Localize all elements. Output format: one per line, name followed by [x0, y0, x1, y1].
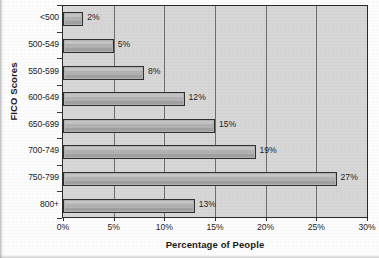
bar-value-label: 8% [148, 66, 160, 76]
bar-value-label: 27% [341, 172, 358, 182]
x-axis-title: Percentage of People [62, 239, 368, 250]
x-axis-tick-label: 10% [144, 222, 184, 232]
bar-value-label: 12% [189, 92, 206, 102]
y-axis-tick-label: 650-699 [10, 119, 59, 129]
x-axis-tick [316, 218, 317, 221]
x-axis-tick [266, 218, 267, 221]
x-axis-tick [164, 218, 165, 221]
y-axis-tick-label: 800+ [10, 199, 59, 209]
y-axis-tick-label: 750-799 [10, 172, 59, 182]
y-axis-tick-label: <500 [10, 12, 59, 22]
x-axis-tick-label: 5% [94, 222, 134, 232]
x-axis-tick [114, 218, 115, 221]
bar-value-label: 2% [87, 12, 99, 22]
y-axis-tick-label: 550-599 [10, 66, 59, 76]
y-axis-tick-label: 600-649 [10, 92, 59, 102]
x-axis-tick-label: 15% [195, 222, 235, 232]
bar-value-label: 5% [118, 39, 130, 49]
bar-value-label: 19% [260, 145, 277, 155]
y-axis-tick-labels: <500500-549550-599600-649650-699700-7497… [10, 5, 59, 218]
bar-value-label: 15% [219, 119, 236, 129]
x-axis-tick [367, 218, 368, 221]
x-axis-tick [215, 218, 216, 221]
bar-value-labels: 2%5%8%12%15%19%27%13% [62, 5, 379, 218]
chart-figure: FICO Scores FICO Scores <500500-549550-5… [0, 0, 379, 258]
scan-edge-left [0, 0, 3, 258]
bar-value-label: 13% [199, 199, 216, 209]
x-axis-tick-label: 20% [246, 222, 286, 232]
x-axis-tick-label: 30% [347, 222, 379, 232]
y-axis-tick-label: 500-549 [10, 39, 59, 49]
x-axis-tick-label: 25% [296, 222, 336, 232]
x-axis-tick [63, 218, 64, 221]
x-axis-tick-labels: 0%5%10%15%20%25%30% [0, 222, 379, 236]
y-axis-tick-label: 700-749 [10, 145, 59, 155]
x-axis-tick-label: 0% [43, 222, 83, 232]
chart-title: FICO Scores [186, 0, 379, 1]
